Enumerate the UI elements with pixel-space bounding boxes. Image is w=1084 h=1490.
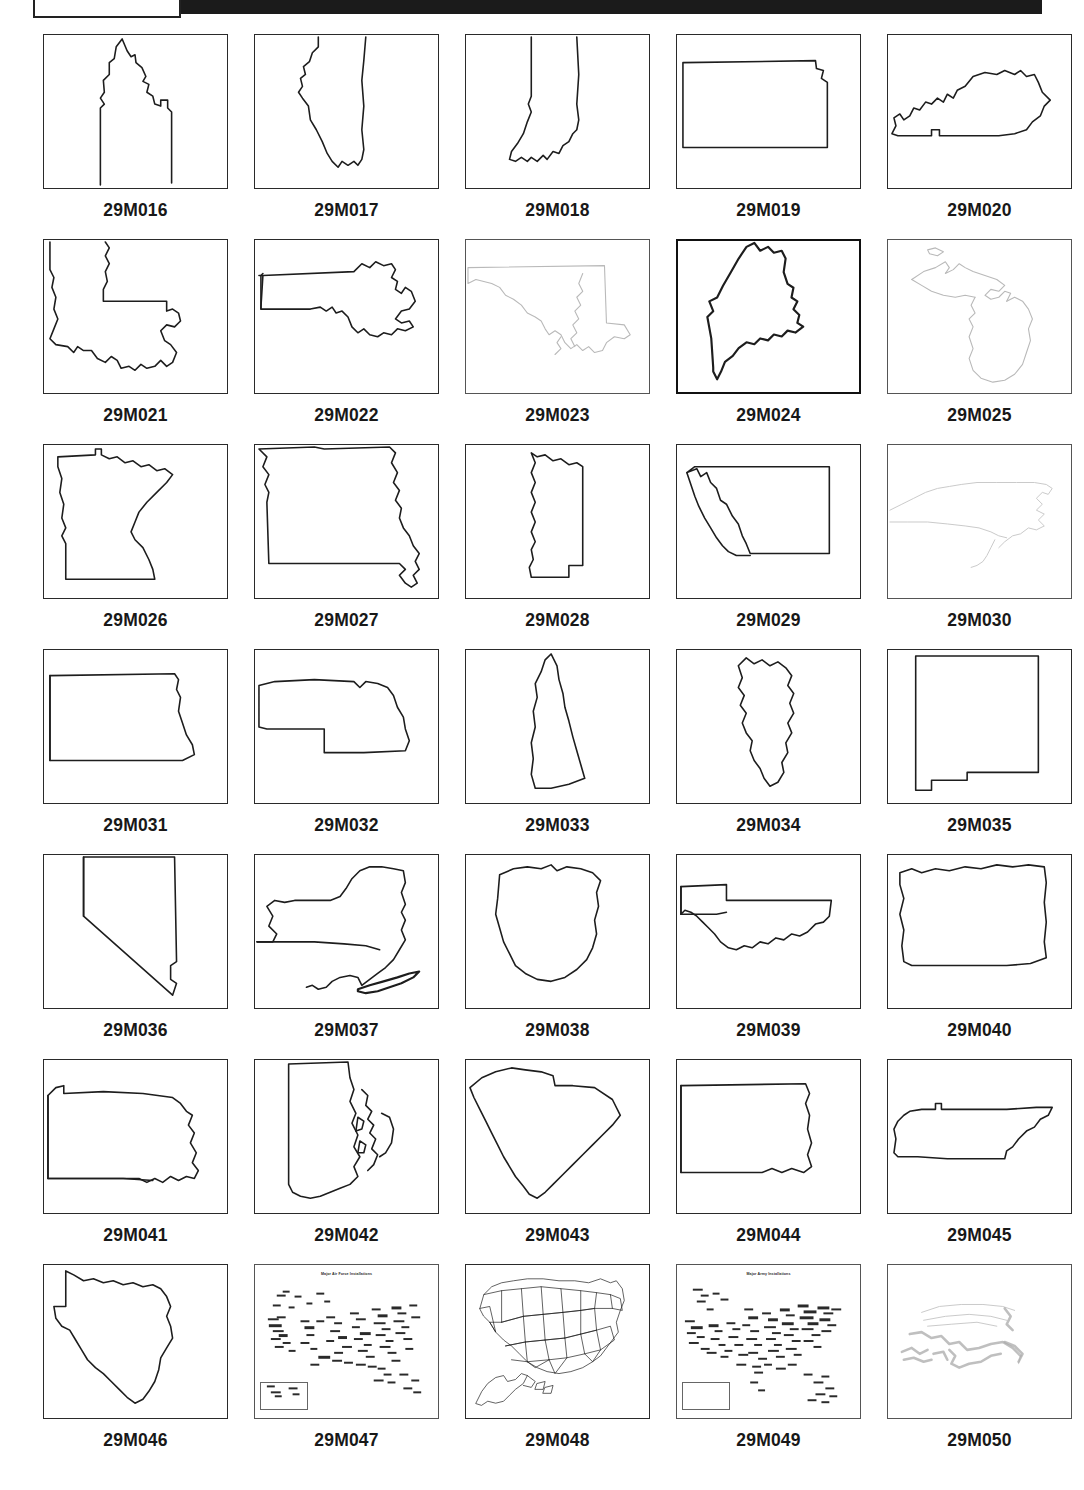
thumbnail-cell[interactable]: 29M043 xyxy=(455,1059,660,1264)
slide-id: 29M043 xyxy=(525,1225,589,1246)
new-hampshire-outline-icon xyxy=(466,650,649,803)
thumbnail-cell[interactable]: 29M024 xyxy=(666,239,871,444)
slide-id: 29M028 xyxy=(525,610,589,631)
slide-frame[interactable] xyxy=(465,239,650,394)
minnesota-outline-icon xyxy=(44,445,227,598)
slide-frame[interactable] xyxy=(887,239,1072,394)
slide-frame[interactable] xyxy=(43,444,228,599)
thumbnail-cell[interactable]: 29M037 xyxy=(244,854,449,1059)
slide-id: 29M041 xyxy=(103,1225,167,1246)
thumbnail-cell[interactable]: 29M023 xyxy=(455,239,660,444)
slide-frame[interactable] xyxy=(676,1059,861,1214)
slide-frame[interactable] xyxy=(254,1059,439,1214)
slide-id: 29M018 xyxy=(525,200,589,221)
header-label-box xyxy=(33,0,181,18)
slide-frame[interactable] xyxy=(887,444,1072,599)
slide-frame[interactable] xyxy=(887,1264,1072,1419)
maryland-outline-icon xyxy=(466,240,649,393)
thumbnail-cell[interactable]: 29M032 xyxy=(244,649,449,854)
slide-id: 29M035 xyxy=(947,815,1011,836)
nebraska-outline-icon xyxy=(255,650,438,803)
slide-frame[interactable] xyxy=(43,34,228,189)
thumbnail-cell[interactable]: 29M021 xyxy=(33,239,238,444)
thumbnail-cell[interactable]: 29M026 xyxy=(33,444,238,649)
slide-frame[interactable] xyxy=(465,649,650,804)
slide-frame[interactable]: Major Air Force Installations xyxy=(254,1264,439,1419)
slide-id: 29M025 xyxy=(947,405,1011,426)
slide-frame[interactable] xyxy=(676,34,861,189)
thumbnail-cell[interactable]: 29M028 xyxy=(455,444,660,649)
slide-frame[interactable] xyxy=(887,34,1072,189)
thumbnail-cell[interactable]: 29M042 xyxy=(244,1059,449,1264)
thumbnail-cell[interactable]: 29M034 xyxy=(666,649,871,854)
thumbnail-cell[interactable]: 29M041 xyxy=(33,1059,238,1264)
thumbnail-cell[interactable]: 29M035 xyxy=(877,649,1082,854)
slide-frame[interactable] xyxy=(43,649,228,804)
thumbnail-cell[interactable]: Major Army Installations xyxy=(666,1264,871,1469)
thumbnail-cell[interactable]: 29M048 xyxy=(455,1264,660,1469)
thumbnail-cell[interactable]: 29M019 xyxy=(666,34,871,239)
thumbnail-cell[interactable]: 29M036 xyxy=(33,854,238,1059)
air-force-installations-map: Major Air Force Installations xyxy=(255,1265,438,1418)
slide-frame[interactable] xyxy=(465,1059,650,1214)
slide-frame[interactable] xyxy=(254,239,439,394)
thumbnail-cell[interactable]: 29M016 xyxy=(33,34,238,239)
thumbnail-cell[interactable]: 29M045 xyxy=(877,1059,1082,1264)
texas-outline-icon xyxy=(44,1265,227,1418)
thumbnail-cell[interactable]: 29M027 xyxy=(244,444,449,649)
slide-id: 29M032 xyxy=(314,815,378,836)
slide-id: 29M027 xyxy=(314,610,378,631)
slide-frame[interactable] xyxy=(465,444,650,599)
thumbnail-cell[interactable]: 29M030 xyxy=(877,444,1082,649)
thumbnail-cell[interactable]: 29M044 xyxy=(666,1059,871,1264)
slide-frame[interactable] xyxy=(254,34,439,189)
slide-frame[interactable] xyxy=(676,444,861,599)
thumbnail-cell[interactable]: 29M050 xyxy=(877,1264,1082,1469)
new-mexico-outline-icon xyxy=(888,650,1071,803)
slide-id: 29M030 xyxy=(947,610,1011,631)
thumbnail-cell[interactable]: 29M022 xyxy=(244,239,449,444)
thumbnail-cell[interactable]: 29M039 xyxy=(666,854,871,1059)
south-carolina-outline-icon xyxy=(466,1060,649,1213)
thumbnail-cell[interactable]: 29M033 xyxy=(455,649,660,854)
thumbnail-cell[interactable]: 29M018 xyxy=(455,34,660,239)
slide-frame[interactable] xyxy=(887,1059,1072,1214)
tennessee-outline-icon xyxy=(888,1060,1071,1213)
thumbnail-cell[interactable]: 29M029 xyxy=(666,444,871,649)
slide-id: 29M023 xyxy=(525,405,589,426)
slide-frame[interactable] xyxy=(254,444,439,599)
thumbnail-cell[interactable]: 29M038 xyxy=(455,854,660,1059)
south-dakota-outline-icon xyxy=(677,1060,860,1213)
slide-frame[interactable] xyxy=(43,1264,228,1419)
massachusetts-outline-icon xyxy=(255,240,438,393)
slide-frame[interactable] xyxy=(43,854,228,1009)
sheet-header xyxy=(0,0,1084,26)
slide-frame[interactable] xyxy=(254,854,439,1009)
slide-id: 29M046 xyxy=(103,1430,167,1451)
inset-box xyxy=(682,1382,730,1410)
thumbnail-cell[interactable]: 29M020 xyxy=(877,34,1082,239)
slide-id: 29M039 xyxy=(736,1020,800,1041)
slide-frame[interactable] xyxy=(676,649,861,804)
slide-frame[interactable] xyxy=(43,1059,228,1214)
slide-frame[interactable] xyxy=(465,34,650,189)
illinois-outline-icon xyxy=(255,35,438,188)
thumbnail-cell[interactable]: 29M017 xyxy=(244,34,449,239)
slide-frame[interactable] xyxy=(676,854,861,1009)
slide-frame[interactable] xyxy=(887,854,1072,1009)
slide-frame[interactable] xyxy=(887,649,1072,804)
slide-frame[interactable] xyxy=(465,1264,650,1419)
thumbnail-cell[interactable]: 29M040 xyxy=(877,854,1082,1059)
slide-frame[interactable] xyxy=(254,649,439,804)
rhode-island-outline-icon xyxy=(255,1060,438,1213)
slide-frame[interactable] xyxy=(465,854,650,1009)
army-installations-map: Major Army Installations xyxy=(677,1265,860,1418)
thumbnail-cell[interactable]: 29M025 xyxy=(877,239,1082,444)
thumbnail-cell[interactable]: Major Air Force Installations xyxy=(244,1264,449,1469)
kentucky-outline-icon xyxy=(888,35,1071,188)
slide-frame[interactable] xyxy=(676,239,861,394)
slide-frame[interactable] xyxy=(43,239,228,394)
slide-frame[interactable]: Major Army Installations xyxy=(676,1264,861,1419)
thumbnail-cell[interactable]: 29M031 xyxy=(33,649,238,854)
thumbnail-cell[interactable]: 29M046 xyxy=(33,1264,238,1469)
